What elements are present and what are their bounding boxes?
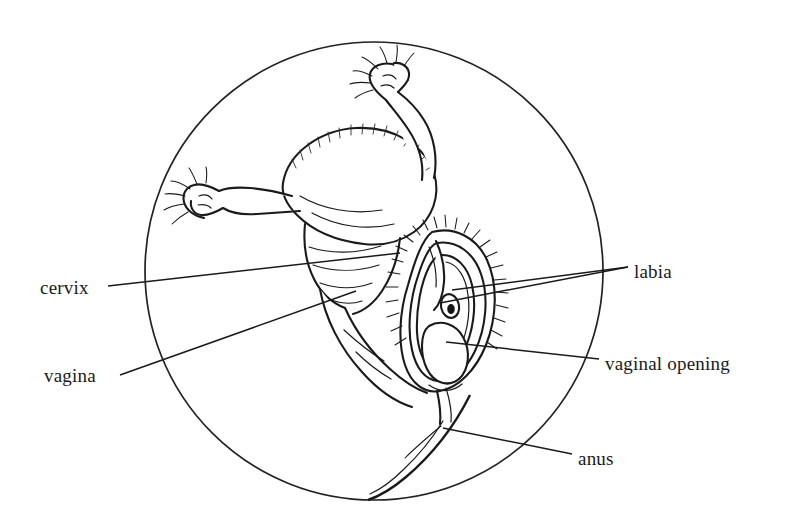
- diagram-canvas: [0, 0, 800, 528]
- label-anus: anus: [578, 449, 614, 468]
- anus-region: [368, 395, 470, 500]
- right-ovary: [350, 45, 414, 100]
- leader-line-anus: [443, 428, 572, 454]
- label-vaginal-opening: vaginal opening: [605, 354, 730, 373]
- frame-circle: [145, 42, 603, 500]
- vulva: [386, 215, 508, 424]
- label-vagina: vagina: [44, 366, 96, 385]
- left-ovary: [164, 167, 223, 224]
- leader-line-vagina: [120, 291, 356, 375]
- anatomical-figure: cervix vagina labia vaginal opening anus: [0, 0, 800, 528]
- label-labia: labia: [634, 262, 672, 281]
- label-cervix: cervix: [40, 278, 89, 297]
